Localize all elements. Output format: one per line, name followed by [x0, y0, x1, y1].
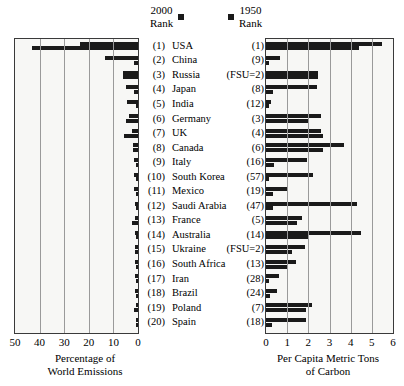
left-chart-x-axis: 50403020100: [14, 336, 139, 350]
bar-2000: [127, 100, 138, 104]
rank-2000: (15): [139, 243, 169, 254]
legend-item-1950: 1950 Rank: [228, 4, 262, 29]
bar-1950: [266, 323, 272, 327]
country-name: India: [169, 98, 233, 109]
rank-2000: (6): [139, 113, 169, 124]
bar-1950: [266, 46, 359, 50]
left-bar-row: [15, 199, 138, 214]
axis-tick-label: 20: [83, 336, 94, 348]
bar-1950: [266, 61, 269, 65]
rank-2000: (5): [139, 98, 169, 109]
rank-2000: (18): [139, 287, 169, 298]
axis-tick-label: 3: [327, 336, 333, 348]
bar-1950: [123, 75, 138, 79]
rank-1950: (28): [233, 273, 265, 284]
bar-2000: [266, 143, 344, 147]
list-item: (17)Iran(28): [139, 271, 265, 286]
axis-tick-label: 0: [263, 336, 269, 348]
left-bar-row: [15, 243, 138, 258]
bar-1950: [136, 206, 139, 210]
bar-1950: [136, 192, 139, 196]
bar-1950: [266, 75, 318, 79]
bar-1950: [266, 308, 306, 312]
rank-1950: (4): [233, 127, 265, 138]
right-chart-x-axis: 0123456: [265, 336, 394, 350]
left-chart-axis-caption: Percentage of World Emissions: [0, 352, 170, 378]
country-name: Spain: [169, 316, 233, 327]
axis-tick-label: 5: [369, 336, 375, 348]
gridline: [287, 39, 288, 333]
list-item: (15)Ukraine(FSU=2): [139, 242, 265, 257]
axis-tick-label: 30: [59, 336, 70, 348]
left-chart-bars: [15, 39, 138, 333]
legend-1950-text: 1950 Rank: [239, 4, 262, 29]
country-name: Iran: [169, 273, 233, 284]
left-bar-row: [15, 184, 138, 199]
rank-1950: (8): [233, 83, 265, 94]
left-chart-plot-area: [14, 38, 139, 334]
bar-2000: [134, 173, 138, 177]
bar-2000: [266, 245, 305, 249]
bar-2000: [266, 114, 321, 118]
right-chart-axis-caption: Per Capita Metric Tons of Carbon: [248, 352, 404, 378]
left-caption-line2: World Emissions: [0, 365, 170, 378]
bar-1950: [136, 235, 139, 239]
bar-1950: [266, 177, 269, 181]
bar-2000: [123, 71, 138, 75]
list-item: (7)UK(4): [139, 125, 265, 140]
bar-1950: [132, 221, 138, 225]
bar-1950: [136, 163, 139, 167]
left-bar-row: [15, 68, 138, 83]
country-label-column: (1)USA(1)(2)China(9)(3)Russia(FSU=2)(4)J…: [139, 38, 265, 334]
list-item: (8)Canada(6): [139, 140, 265, 155]
rank-2000: (12): [139, 200, 169, 211]
country-name: Brazil: [169, 287, 233, 298]
left-bar-row: [15, 301, 138, 316]
bar-2000: [266, 202, 357, 206]
country-name: Saudi Arabia: [169, 200, 233, 211]
rank-2000: (19): [139, 302, 169, 313]
legend-item-2000: 2000 Rank: [150, 4, 184, 29]
left-bar-row: [15, 83, 138, 98]
bar-1950: [266, 294, 270, 298]
bar-2000: [266, 274, 279, 278]
gridline: [372, 39, 373, 333]
bar-1950: [133, 148, 138, 152]
left-bar-row: [15, 155, 138, 170]
rank-2000: (11): [139, 185, 169, 196]
rank-2000: (4): [139, 83, 169, 94]
list-item: (13)France(5): [139, 213, 265, 228]
gridline: [113, 39, 114, 333]
bar-2000: [266, 129, 321, 133]
bar-2000: [266, 289, 277, 293]
rank-1950: (FSU=2): [220, 69, 265, 80]
bar-2000: [135, 216, 138, 220]
bar-2000: [135, 274, 138, 278]
left-bar-row: [15, 257, 138, 272]
left-bar-row: [15, 272, 138, 287]
bar-1950: [266, 104, 269, 108]
list-item: (4)Japan(8): [139, 82, 265, 97]
chart-legend: 2000 Rank 1950 Rank: [0, 2, 404, 36]
left-bar-row: [15, 228, 138, 243]
legend-1950-line2: Rank: [239, 17, 262, 30]
rank-1950: (5): [233, 214, 265, 225]
list-item: (16)South Africa(13): [139, 256, 265, 271]
country-name: Australia: [169, 229, 233, 240]
bar-2000: [266, 231, 361, 235]
country-name: Poland: [169, 302, 233, 313]
bar-1950: [136, 104, 139, 108]
country-name: USA: [169, 40, 233, 51]
bar-1950: [134, 308, 138, 312]
rank-2000: (14): [139, 229, 169, 240]
axis-tick-label: 10: [108, 336, 119, 348]
bar-1950: [136, 323, 139, 327]
list-item: (12)Saudi Arabia(47): [139, 198, 265, 213]
country-name: Russia: [169, 69, 220, 80]
bar-1950: [126, 119, 138, 123]
bar-2000: [133, 143, 138, 147]
bar-2000: [136, 303, 139, 307]
legend-1950-swatch-icon: [228, 14, 234, 20]
country-name: South Africa: [169, 258, 233, 269]
bar-2000: [105, 56, 138, 60]
